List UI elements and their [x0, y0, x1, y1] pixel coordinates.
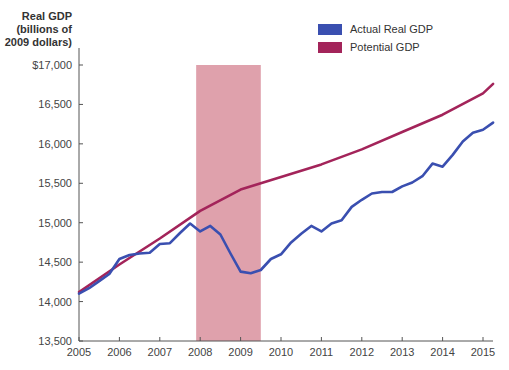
x-tick-label: 2012 [350, 346, 374, 358]
series-lines [79, 84, 493, 294]
axes: 13,50014,00014,50015,00015,50016,00016,5… [32, 48, 495, 358]
x-tick-label: 2006 [107, 346, 131, 358]
y-tick-label: $17,000 [32, 59, 72, 71]
x-tick-label: 2009 [228, 346, 252, 358]
potential-gdp-line [79, 84, 493, 292]
y-tick-label: 15,500 [38, 177, 72, 189]
y-tick-label: 14,500 [38, 256, 72, 268]
y-tick-label: 16,500 [38, 98, 72, 110]
actual-gdp-line [79, 123, 493, 294]
x-tick-label: 2011 [310, 346, 334, 358]
x-tick-label: 2010 [269, 346, 293, 358]
x-tick-label: 2014 [430, 346, 454, 358]
x-tick-label: 2013 [390, 346, 414, 358]
y-tick-label: 16,000 [38, 138, 72, 150]
x-tick-label: 2008 [188, 346, 212, 358]
x-tick-label: 2015 [471, 346, 495, 358]
x-tick-label: 2005 [67, 346, 91, 358]
recession-shading [196, 65, 261, 341]
y-tick-label: 14,000 [38, 296, 72, 308]
recession-bar [196, 65, 261, 341]
x-tick-label: 2007 [148, 346, 172, 358]
y-tick-label: 15,000 [38, 217, 72, 229]
line-chart: 13,50014,00014,50015,00015,50016,00016,5… [0, 0, 509, 370]
